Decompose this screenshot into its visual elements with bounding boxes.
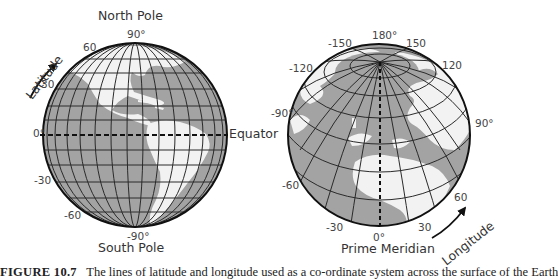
- latitude-tick-minus-60: -60: [64, 210, 81, 221]
- north-pole-label: North Pole: [98, 10, 163, 23]
- longitude-tick-minus-90: -90°: [271, 108, 293, 119]
- latitude-tick-90: 90°: [127, 29, 146, 40]
- longitude-tick-minus-150: -150: [328, 38, 352, 49]
- longitude-tick-minus-60: -60: [282, 180, 299, 191]
- longitude-tick-180: 180°: [372, 30, 397, 41]
- south-pole-label: South Pole: [98, 242, 164, 255]
- latitude-globe: [40, 43, 230, 227]
- figure-number: FIGURE 10.7: [0, 265, 77, 279]
- longitude-tick-30: 30: [418, 222, 431, 233]
- longitude-tick-120: 120: [442, 60, 462, 71]
- longitude-arrow-icon: [432, 208, 465, 238]
- longitude-tick-90: 90°: [475, 118, 494, 129]
- figure-caption: FIGURE 10.7 The lines of latitude and lo…: [0, 265, 558, 280]
- longitude-tick-150: 150: [406, 38, 426, 49]
- longitude-tick-60: 60: [454, 192, 467, 203]
- latitude-tick-0: 0°: [33, 128, 45, 139]
- longitude-tick-minus-30: -30: [326, 222, 343, 233]
- caption-text: The lines of latitude and longitude used…: [86, 265, 558, 279]
- longitude-tick-minus-120: -120: [289, 63, 313, 74]
- latitude-tick-60: 60: [83, 42, 96, 53]
- equator-label: Equator: [229, 128, 278, 141]
- latitude-tick-minus-30: -30: [34, 175, 51, 186]
- prime-meridian-label: Prime Meridian: [341, 243, 435, 256]
